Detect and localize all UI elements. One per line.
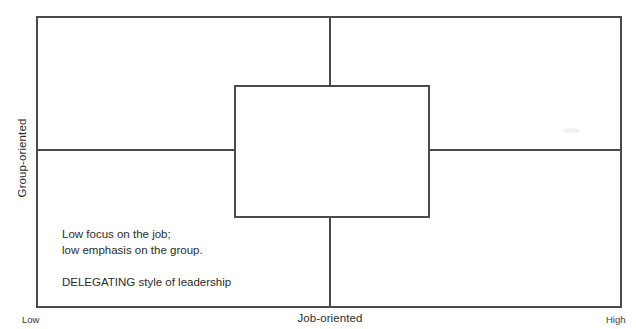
quadrant-description-line-2: low emphasis on the group. (62, 242, 231, 258)
x-axis-label: Job-oriented (270, 312, 390, 324)
x-axis-low-label: Low (22, 314, 39, 325)
scan-artifact (562, 128, 580, 133)
center-rectangle-right (428, 85, 430, 218)
y-axis-label: Group-oriented (16, 98, 28, 218)
leadership-grid-diagram: Group-oriented Job-oriented Low High Low… (0, 0, 636, 329)
center-rectangle-bottom (234, 216, 430, 218)
center-rectangle-top (234, 85, 430, 87)
x-axis-high-label: High (606, 314, 626, 325)
grid-horizontal-divider-left (36, 149, 235, 151)
grid-vertical-divider-lower (329, 216, 331, 308)
quadrant-description-line-1: Low focus on the job; (62, 226, 231, 242)
quadrant-description-block: Low focus on the job; low emphasis on th… (62, 226, 231, 290)
grid-vertical-divider-upper (329, 16, 331, 86)
center-rectangle-left (234, 85, 236, 218)
grid-outer-border-right (620, 16, 622, 308)
quadrant-leadership-style-label: DELEGATING style of leadership (62, 274, 231, 290)
grid-horizontal-divider-right (428, 149, 622, 151)
grid-outer-border-left (36, 16, 38, 308)
